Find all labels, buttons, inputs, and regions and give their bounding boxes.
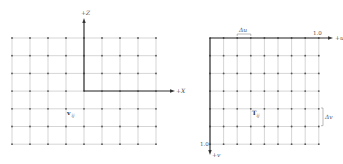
grid-point: [318, 126, 320, 128]
grid-point: [11, 55, 13, 57]
grid-point: [29, 143, 31, 145]
texel-subscript: ij: [257, 113, 260, 118]
grid-point: [318, 55, 320, 57]
diagram-canvas: +Z +X v ij +u +v 1.0 1.0 Δu Δv T ij: [0, 0, 343, 164]
grid-point: [119, 126, 121, 128]
grid-point: [250, 55, 252, 57]
grid-point: [264, 55, 266, 57]
grid-point: [47, 108, 49, 110]
grid-point: [29, 108, 31, 110]
grid-point: [277, 126, 279, 128]
v-axis-label: +v: [212, 151, 221, 158]
grid-point: [250, 90, 252, 92]
grid-point: [83, 126, 85, 128]
grid-point: [101, 143, 103, 145]
u-axis-arrow-icon: [328, 36, 333, 39]
z-axis-arrow-icon: [82, 18, 85, 23]
grid-point: [291, 108, 293, 110]
grid-point: [137, 108, 139, 110]
grid-point: [236, 55, 238, 57]
grid-point: [29, 126, 31, 128]
grid-point: [119, 73, 121, 75]
grid-point: [29, 73, 31, 75]
grid-point: [236, 90, 238, 92]
grid-point: [264, 108, 266, 110]
grid-point: [137, 126, 139, 128]
grid-point: [101, 37, 103, 39]
u-max-label: 1.0: [313, 30, 322, 36]
grid-point: [155, 73, 157, 75]
grid-point: [264, 90, 266, 92]
grid-point: [291, 143, 293, 145]
grid-point: [236, 108, 238, 110]
grid-point: [291, 90, 293, 92]
vertex-subscript: ij: [72, 113, 75, 118]
grid-point: [318, 143, 320, 145]
grid-point: [11, 90, 13, 92]
v-max-label: 1.0: [200, 141, 209, 147]
grid-point: [223, 108, 225, 110]
grid-point: [65, 126, 67, 128]
dv-label: Δv: [324, 113, 333, 120]
grid-point: [119, 55, 121, 57]
grid-point: [11, 143, 13, 145]
grid-point: [277, 73, 279, 75]
grid-point: [29, 90, 31, 92]
grid-point: [277, 108, 279, 110]
grid-point: [223, 90, 225, 92]
z-axis-label: +Z: [81, 9, 91, 16]
grid-point: [291, 73, 293, 75]
grid-point: [291, 126, 293, 128]
grid-point: [47, 126, 49, 128]
grid-point: [83, 143, 85, 145]
grid-point: [155, 108, 157, 110]
grid-point: [119, 108, 121, 110]
grid-point: [223, 73, 225, 75]
grid-point: [47, 37, 49, 39]
grid-point: [291, 55, 293, 57]
grid-point: [264, 73, 266, 75]
grid-point: [11, 73, 13, 75]
grid-point: [155, 55, 157, 57]
grid-point: [11, 37, 13, 39]
vertex-label: v: [66, 109, 71, 116]
grid-point: [119, 143, 121, 145]
grid-point: [155, 126, 157, 128]
grid-point: [101, 73, 103, 75]
grid-point: [236, 73, 238, 75]
grid-point: [65, 55, 67, 57]
grid-point: [119, 37, 121, 39]
grid-point: [250, 73, 252, 75]
grid-point: [318, 108, 320, 110]
dv-bracket: [321, 108, 323, 126]
grid-point: [137, 37, 139, 39]
grid-point: [65, 73, 67, 75]
grid-point: [101, 108, 103, 110]
grid-point: [304, 90, 306, 92]
grid-point: [304, 108, 306, 110]
grid-point: [304, 143, 306, 145]
grid-point: [47, 55, 49, 57]
grid-point: [47, 73, 49, 75]
grid-point: [277, 143, 279, 145]
grid-point: [65, 143, 67, 145]
grid-point: [101, 126, 103, 128]
grid-point: [137, 143, 139, 145]
grid-point: [155, 143, 157, 145]
grid-point: [137, 73, 139, 75]
grid-point: [277, 90, 279, 92]
u-axis-label: +u: [335, 34, 343, 41]
grid-point: [29, 37, 31, 39]
grid-point: [223, 55, 225, 57]
grid-point: [223, 143, 225, 145]
grid-point: [318, 90, 320, 92]
grid-point: [65, 90, 67, 92]
grid-point: [250, 143, 252, 145]
grid-point: [264, 143, 266, 145]
grid-point: [236, 143, 238, 145]
grid-point: [236, 126, 238, 128]
grid-point: [47, 90, 49, 92]
grid-point: [29, 55, 31, 57]
texture-grid: +u +v 1.0 1.0 Δu Δv T ij: [200, 26, 343, 158]
grid-point: [137, 55, 139, 57]
